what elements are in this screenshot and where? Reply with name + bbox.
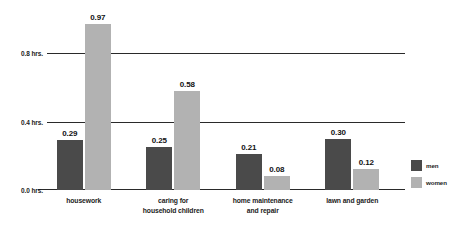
x-axis-category-label: home maintenanceand repair (233, 196, 293, 215)
plot-area: 0.8 hrs.0.4 hrs.0.0 hrs.0.290.97housewor… (47, 12, 405, 190)
bar-men: 0.25 (146, 147, 172, 190)
clipped-title-strip (0, 0, 452, 4)
bar-women: 0.12 (353, 169, 379, 190)
bar-group: 0.210.08home maintenanceand repair (226, 12, 316, 190)
bar-group: 0.290.97housework (47, 12, 137, 190)
bar-men: 0.21 (236, 154, 262, 190)
chart-legend: menwomen (411, 160, 452, 194)
y-axis-tick-label: 0.0 hrs. (21, 187, 43, 194)
y-axis-tick-label: 0.4 hrs. (21, 118, 43, 125)
bar-value-label: 0.25 (152, 136, 167, 145)
bar-value-label: 0.12 (359, 158, 374, 167)
bar-women: 0.97 (85, 24, 111, 190)
legend-swatch-men (411, 160, 422, 171)
bar-women: 0.58 (174, 91, 200, 190)
bar-group: 0.250.58caring forhousehold children (137, 12, 227, 190)
x-axis-category-label: lawn and garden (326, 196, 378, 206)
bar-men: 0.30 (325, 139, 351, 190)
legend-swatch-women (411, 177, 422, 188)
x-axis-category-label: housework (66, 196, 101, 206)
legend-label: men (426, 162, 438, 169)
bar-value-label: 0.08 (269, 165, 284, 174)
y-axis-tick-label: 0.8 hrs. (21, 50, 43, 57)
bar-value-label: 0.97 (90, 13, 105, 22)
legend-item: men (411, 160, 452, 171)
bar-value-label: 0.30 (331, 128, 346, 137)
legend-item: women (411, 177, 452, 188)
bar-chart: 0.8 hrs.0.4 hrs.0.0 hrs.0.290.97housewor… (0, 0, 452, 243)
bar-value-label: 0.58 (180, 80, 195, 89)
legend-label: women (426, 179, 447, 186)
bar-value-label: 0.21 (241, 143, 256, 152)
bar-men: 0.29 (57, 140, 83, 190)
x-axis-category-label: caring forhousehold children (143, 196, 204, 215)
bar-women: 0.08 (264, 176, 290, 190)
bar-group: 0.300.12lawn and garden (316, 12, 406, 190)
bar-value-label: 0.29 (62, 129, 77, 138)
